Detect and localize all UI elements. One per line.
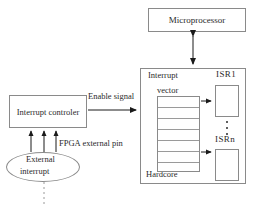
fpga-external-pin-label: FPGA external pin [59,139,123,148]
isrn-label: ISRn [215,135,235,144]
interrupt-vector-table [157,96,200,172]
vector-row-divider [158,129,199,130]
enable-signal-label: Enable signal [88,92,134,101]
block-isr1 [215,85,239,117]
interrupt-vector-label-line2: vector [157,86,178,95]
microprocessor-label: Microprocessor [148,8,246,32]
diagram-canvas: Microprocessor Hardcore Interrupt vector… [0,0,260,208]
vector-row-divider [158,140,199,141]
external-interrupt-label-line1: External [26,155,55,164]
vector-row-divider [158,118,199,119]
vector-row-divider [158,162,199,163]
vector-row-divider [158,151,199,152]
vector-row-divider [158,107,199,108]
external-interrupt-label-line2: interrupt [20,167,49,176]
block-isrn [215,149,239,181]
isr1-label: ISR1 [216,70,236,79]
interrupt-vector-label-line1: Interrupt [148,71,178,80]
interrupt-controller-label: Interrupt controler [9,95,87,128]
